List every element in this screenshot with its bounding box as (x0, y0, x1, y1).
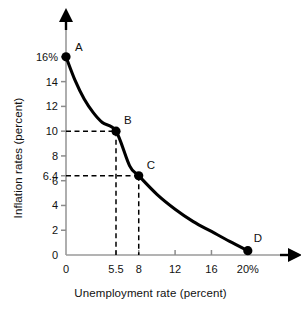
point-label-c: C (147, 159, 155, 171)
data-point-markers (61, 52, 252, 255)
y-tick-label: 8 (52, 150, 58, 162)
y-tick-label: 2 (52, 224, 58, 236)
y-tick-label: 6.4 (43, 170, 58, 182)
y-tick-label: 4 (52, 199, 58, 211)
phillips-curve-chart: 02466.4810121416% 05.58121620% ABCD Unem… (0, 0, 301, 309)
y-tick-label: 10 (46, 125, 58, 137)
y-tick-label: 16% (36, 51, 58, 63)
y-tick-label: 0 (52, 249, 58, 261)
y-axis-title: Inflation rates (percent) (12, 58, 24, 258)
point-label-b: B (124, 114, 132, 126)
phillips-curve-line (66, 57, 248, 251)
x-tick-label: 5.5 (108, 263, 123, 275)
axis-lines (66, 20, 290, 255)
x-tick-label: 20% (237, 263, 259, 275)
x-tick-label: 16 (205, 263, 217, 275)
x-tick-label: 12 (169, 263, 181, 275)
x-tick-label: 8 (136, 263, 142, 275)
guide-lines (66, 131, 139, 255)
x-axis-title: Unemployment rate (percent) (0, 287, 301, 299)
y-tick-label: 14 (46, 76, 58, 88)
x-tick-label: 0 (63, 263, 69, 275)
point-label-d: D (254, 232, 262, 244)
y-tick-label: 12 (46, 100, 58, 112)
point-label-a: A (75, 41, 83, 53)
